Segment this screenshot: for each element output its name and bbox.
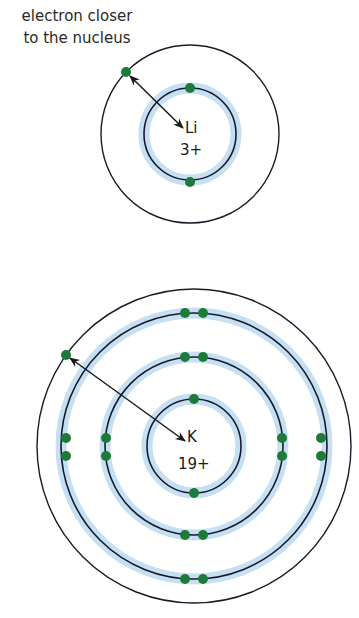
k-distance-arrow	[70, 358, 185, 441]
electron	[316, 451, 326, 461]
potassium-atom: K 19+	[37, 289, 351, 603]
electron	[189, 488, 199, 498]
electron	[180, 352, 190, 362]
electron	[189, 394, 199, 404]
li-symbol: Li	[185, 119, 198, 137]
k-shell-2-halo	[105, 357, 283, 535]
electron	[61, 433, 71, 443]
electron	[185, 177, 195, 187]
li-charge: 3+	[180, 141, 202, 159]
electron	[61, 451, 71, 461]
k-shell-1-orbit	[147, 399, 241, 493]
electron	[101, 433, 111, 443]
electron	[198, 574, 208, 584]
electron	[198, 352, 208, 362]
electron	[316, 433, 326, 443]
k-outer-electron	[61, 350, 71, 360]
electron	[198, 530, 208, 540]
k-shell-4-orbit	[37, 289, 351, 603]
li-distance-arrow	[130, 76, 183, 128]
electron	[185, 83, 195, 93]
electron	[180, 308, 190, 318]
electron	[101, 451, 111, 461]
electron	[198, 308, 208, 318]
li-outer-electron	[121, 67, 131, 77]
electron	[277, 451, 287, 461]
lithium-atom: Li 3+	[101, 45, 279, 223]
k-charge: 19+	[178, 455, 210, 473]
electron	[180, 530, 190, 540]
atom-shell-diagram: Li 3+	[0, 0, 359, 618]
electron	[277, 433, 287, 443]
k-symbol: K	[187, 428, 198, 446]
electron	[180, 574, 190, 584]
